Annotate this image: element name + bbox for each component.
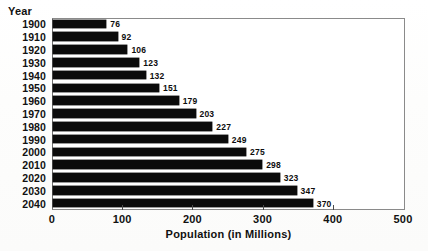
- x-axis-tick-label: 200: [183, 213, 202, 225]
- y-axis-tick-label: 2010: [0, 160, 46, 171]
- bar-row: 2000275: [0, 146, 428, 159]
- x-axis-tick-label: 300: [253, 213, 272, 225]
- bar: [53, 32, 118, 41]
- bar: [53, 58, 139, 67]
- bar-track: 203: [53, 108, 404, 121]
- bar-value-label: 123: [143, 58, 158, 67]
- bar-row: 1940132: [0, 69, 428, 82]
- bar-value-label: 151: [163, 84, 178, 93]
- bar-row: 1980227: [0, 120, 428, 133]
- bar: [53, 135, 228, 144]
- bar: [53, 20, 106, 29]
- y-axis-tick-label: 1970: [0, 108, 46, 119]
- x-axis-tick-mark: [263, 205, 264, 210]
- bar-row: 191092: [0, 31, 428, 44]
- bar-track: 123: [53, 56, 404, 69]
- y-axis-tick-label: 1930: [0, 57, 46, 68]
- bar-track: 92: [53, 31, 404, 44]
- y-axis-tick-label: 1910: [0, 32, 46, 43]
- bar: [53, 122, 212, 131]
- bar-value-label: 323: [284, 173, 299, 182]
- bar-track: 347: [53, 184, 404, 197]
- bar-value-label: 370: [317, 199, 332, 208]
- bar-row: 2020323: [0, 172, 428, 185]
- x-axis-tick-label: 500: [394, 213, 413, 225]
- year-axis-caption: Year: [8, 5, 32, 17]
- bar: [53, 96, 179, 105]
- bar-track: 275: [53, 146, 404, 159]
- y-axis-tick-label: 1980: [0, 121, 46, 132]
- bar-value-label: 275: [250, 148, 265, 157]
- x-axis-tick-label: 400: [323, 213, 342, 225]
- bar-row: 190076: [0, 18, 428, 31]
- y-axis-tick-label: 1960: [0, 96, 46, 107]
- y-axis-tick-label: 1950: [0, 83, 46, 94]
- bar-value-label: 249: [232, 135, 247, 144]
- bar-track: 179: [53, 95, 404, 108]
- bar-value-label: 347: [301, 186, 316, 195]
- bar-row: 1920106: [0, 44, 428, 57]
- bar-row: 1960179: [0, 95, 428, 108]
- bar-value-label: 179: [183, 97, 198, 106]
- y-axis-tick-label: 1920: [0, 44, 46, 55]
- bar: [53, 173, 280, 182]
- x-axis-tick-label: 100: [113, 213, 132, 225]
- bar: [53, 148, 246, 157]
- y-axis-tick-label: 2000: [0, 147, 46, 158]
- bar-row: 2040370: [0, 197, 428, 210]
- bar: [53, 109, 196, 118]
- bar-value-label: 76: [110, 20, 120, 29]
- y-axis-tick-label: 1990: [0, 134, 46, 145]
- x-axis-tick-mark: [122, 205, 123, 210]
- bar-row: 2030347: [0, 184, 428, 197]
- y-axis-tick-label: 2020: [0, 172, 46, 183]
- bar-value-label: 132: [150, 71, 165, 80]
- bar-track: 323: [53, 172, 404, 185]
- y-axis-tick-label: 1940: [0, 70, 46, 81]
- bar-track: 106: [53, 44, 404, 57]
- bar-value-label: 106: [131, 45, 146, 54]
- bar-row: 1950151: [0, 82, 428, 95]
- bar-track: 227: [53, 120, 404, 133]
- x-axis-title: Population (in Millions): [52, 228, 405, 240]
- y-axis-tick-label: 1900: [0, 19, 46, 30]
- bar-row: 1990249: [0, 133, 428, 146]
- bar-track: 151: [53, 82, 404, 95]
- x-axis-tick-label: 0: [49, 213, 55, 225]
- bar-track: 249: [53, 133, 404, 146]
- bar: [53, 186, 297, 195]
- bar-value-label: 298: [266, 161, 281, 170]
- bar-value-label: 92: [122, 33, 132, 42]
- bar-value-label: 203: [200, 109, 215, 118]
- bar-row: 2010298: [0, 159, 428, 172]
- chart-page: Year 19007619109219201061930123194013219…: [0, 0, 428, 251]
- x-axis-tick-mark: [333, 205, 334, 210]
- bar-value-label: 227: [216, 122, 231, 131]
- bar-track: 132: [53, 69, 404, 82]
- bar-row: 1970203: [0, 108, 428, 121]
- bar-rows: 1900761910921920106193012319401321950151…: [0, 18, 428, 210]
- bar-track: 370: [53, 197, 404, 210]
- bar-track: 76: [53, 18, 404, 31]
- y-axis-tick-label: 2030: [0, 185, 46, 196]
- bar: [53, 45, 127, 54]
- y-axis-tick-label: 2040: [0, 198, 46, 209]
- x-axis: 0100200300400500: [52, 210, 405, 230]
- bar: [53, 71, 146, 80]
- bar: [53, 199, 313, 208]
- x-axis-tick-mark: [192, 205, 193, 210]
- bar-track: 298: [53, 159, 404, 172]
- bar-row: 1930123: [0, 56, 428, 69]
- bar: [53, 84, 159, 93]
- bar: [53, 160, 262, 169]
